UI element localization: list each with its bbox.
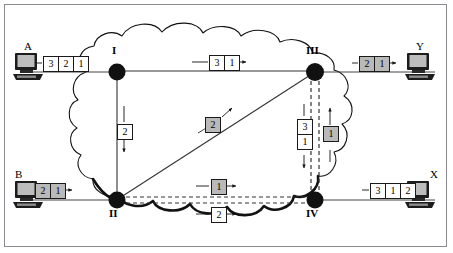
packet-group-host-a: 3 2 1 [43,56,89,72]
packet-box: 2 [117,124,133,140]
packet-box: 1 [224,55,240,71]
packet-box: 2 [211,207,227,223]
router-label-iv: IV [306,207,318,219]
packet-group-link-i-ii: 2 [117,124,133,140]
packet-group-host-y: 2 1 [359,56,390,72]
packet-box: 3 [297,119,313,135]
packet-box: 1 [374,56,390,72]
packet-box: 2 [35,183,51,199]
packet-group-host-x: 3 1 2 [370,183,416,199]
packet-box: 2 [205,117,221,133]
packet-box: 1 [73,56,89,72]
computer-icon-host-y [404,52,438,82]
router-label-iii: III [306,44,319,56]
packet-box: 2 [400,183,416,199]
router-label-ii: II [109,207,118,219]
packet-box: 1 [385,183,401,199]
packet-group-link-i-iii: 3 1 [209,55,240,71]
packet-box: 3 [43,56,59,72]
packet-box: 1 [297,134,313,150]
packet-box: 2 [359,56,375,72]
host-label-x: X [430,168,438,180]
packet-group-link-ii-iv-upper: 1 [211,179,227,195]
packet-box: 1 [323,126,339,142]
packet-group-link-iv-iii: 1 [323,126,339,142]
host-label-a: A [24,40,32,52]
packet-box: 1 [50,183,66,199]
packet-box: 3 [209,55,225,71]
packet-box: 1 [211,179,227,195]
computer-icon-host-a [12,52,46,82]
packet-box: 3 [370,183,386,199]
router-label-i: I [112,44,116,56]
host-label-y: Y [416,40,424,52]
packet-group-link-iii-iv: 3 1 [297,119,313,150]
host-label-b: B [15,168,22,180]
diagram-canvas: A B Y X I II III IV 3 2 1 2 1 2 1 3 1 2 … [0,0,453,253]
packet-group-link-ii-iii: 2 [205,117,221,133]
packet-group-link-ii-iv-lower: 2 [211,207,227,223]
packet-group-host-b: 2 1 [35,183,66,199]
packet-box: 2 [58,56,74,72]
